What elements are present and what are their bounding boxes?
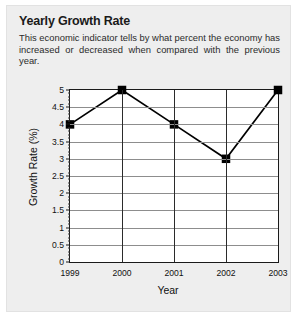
y-axis-label: Growth Rate (%) xyxy=(27,107,39,227)
x-axis-tick-label: 2003 xyxy=(268,268,287,278)
y-axis-minor-tick xyxy=(68,114,71,115)
y-axis-minor-tick xyxy=(68,134,71,135)
y-axis-tick-label: 0 xyxy=(59,257,64,267)
y-axis-minor-tick xyxy=(68,213,71,214)
y-axis-tick xyxy=(66,193,70,194)
y-axis-tick-label: 3 xyxy=(59,154,64,164)
x-axis-tick-label: 2002 xyxy=(216,268,235,278)
chart-plot-region: Growth Rate (%) Year 00.511.522.533.544.… xyxy=(17,76,282,306)
y-axis-minor-tick xyxy=(68,155,71,156)
y-axis-tick xyxy=(66,124,70,125)
y-axis-minor-tick xyxy=(68,151,71,152)
x-axis-tick-label: 2001 xyxy=(164,268,183,278)
chart-description: This economic indicator tells by what pe… xyxy=(19,32,280,67)
y-axis-minor-tick xyxy=(68,127,71,128)
y-axis-minor-tick xyxy=(68,258,71,259)
x-axis-tick-label: 1999 xyxy=(60,268,79,278)
y-axis-minor-tick xyxy=(68,217,71,218)
y-axis-minor-tick xyxy=(68,234,71,235)
y-axis-tick-label: 2.5 xyxy=(52,171,64,181)
y-axis-tick xyxy=(66,210,70,211)
x-axis-label: Year xyxy=(63,284,273,296)
y-axis-minor-tick xyxy=(68,186,71,187)
y-axis-minor-tick xyxy=(68,120,71,121)
y-axis-minor-tick xyxy=(68,237,71,238)
y-axis-tick-label: 3.5 xyxy=(52,137,64,147)
y-axis-minor-tick xyxy=(68,96,71,97)
y-axis-tick-label: 4.5 xyxy=(52,102,64,112)
y-axis-minor-tick xyxy=(68,189,71,190)
y-axis-minor-tick xyxy=(68,172,71,173)
data-point-marker xyxy=(274,86,283,95)
y-axis-minor-tick xyxy=(68,117,71,118)
y-axis-tick xyxy=(66,244,70,245)
y-axis-tick xyxy=(66,262,70,263)
y-axis-minor-tick xyxy=(68,145,71,146)
y-axis-minor-tick xyxy=(68,248,71,249)
y-axis-minor-tick xyxy=(68,179,71,180)
y-axis-minor-tick xyxy=(68,148,71,149)
y-axis-tick xyxy=(66,90,70,91)
y-axis-minor-tick xyxy=(68,255,71,256)
chart-card: Yearly Growth Rate This economic indicat… xyxy=(6,5,291,312)
y-axis-tick-label: 1.5 xyxy=(52,205,64,215)
y-axis-minor-tick xyxy=(68,169,71,170)
y-axis-minor-tick xyxy=(68,100,71,101)
y-axis-tick xyxy=(66,158,70,159)
x-gridline xyxy=(226,90,227,262)
y-axis-minor-tick xyxy=(68,131,71,132)
x-gridline xyxy=(174,90,175,262)
y-axis-tick-label: 5 xyxy=(59,85,64,95)
plot-area: 00.511.522.533.544.551999200020012002200… xyxy=(69,89,279,263)
chart-card-inner: Yearly Growth Rate This economic indicat… xyxy=(17,14,282,306)
y-axis-tick xyxy=(66,227,70,228)
y-axis-minor-tick xyxy=(68,241,71,242)
y-axis-minor-tick xyxy=(68,220,71,221)
y-axis-minor-tick xyxy=(68,200,71,201)
y-axis-minor-tick xyxy=(68,138,71,139)
y-axis-minor-tick xyxy=(68,103,71,104)
y-axis-minor-tick xyxy=(68,182,71,183)
y-axis-tick xyxy=(66,141,70,142)
page-title: Yearly Growth Rate xyxy=(19,14,282,28)
y-axis-minor-tick xyxy=(68,165,71,166)
y-axis-tick xyxy=(66,176,70,177)
y-axis-minor-tick xyxy=(68,224,71,225)
y-axis-minor-tick xyxy=(68,196,71,197)
x-axis-tick-label: 2000 xyxy=(112,268,131,278)
y-axis-minor-tick xyxy=(68,206,71,207)
y-axis-minor-tick xyxy=(68,162,71,163)
y-axis-minor-tick xyxy=(68,93,71,94)
y-axis-tick-label: 1 xyxy=(59,223,64,233)
x-gridline xyxy=(122,90,123,262)
y-axis-tick xyxy=(66,107,70,108)
y-axis-tick-label: 0.5 xyxy=(52,240,64,250)
y-axis-tick-label: 4 xyxy=(59,119,64,129)
y-axis-tick-label: 2 xyxy=(59,188,64,198)
y-axis-minor-tick xyxy=(68,231,71,232)
y-axis-minor-tick xyxy=(68,203,71,204)
y-axis-minor-tick xyxy=(68,251,71,252)
y-axis-minor-tick xyxy=(68,110,71,111)
